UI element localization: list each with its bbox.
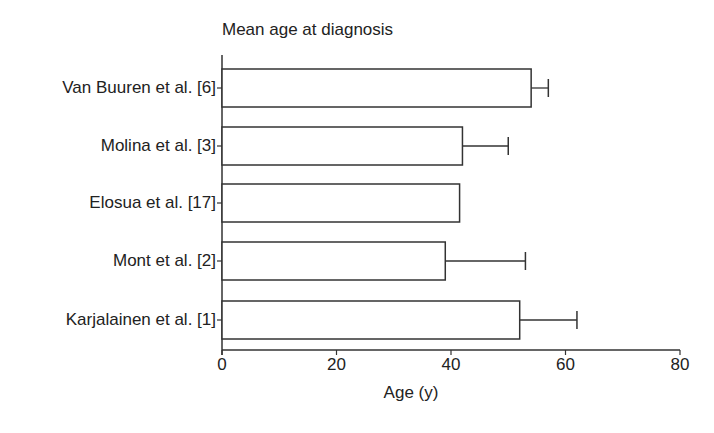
bar bbox=[222, 301, 520, 339]
bar bbox=[222, 127, 462, 165]
x-tick-label: 0 bbox=[217, 355, 226, 375]
x-tick-label: 60 bbox=[556, 355, 575, 375]
category-label: Mont et al. [2] bbox=[113, 251, 216, 271]
bar-chart bbox=[0, 0, 714, 433]
category-label: Van Buuren et al. [6] bbox=[62, 78, 216, 98]
bar bbox=[222, 184, 460, 222]
x-tick-label: 80 bbox=[671, 355, 690, 375]
x-tick-label: 40 bbox=[442, 355, 461, 375]
x-axis-label: Age (y) bbox=[384, 383, 439, 403]
category-label: Molina et al. [3] bbox=[101, 136, 216, 156]
bar bbox=[222, 69, 531, 107]
x-tick-label: 20 bbox=[327, 355, 346, 375]
category-label: Karjalainen et al. [1] bbox=[66, 310, 216, 330]
category-label: Elosua et al. [17] bbox=[89, 193, 216, 213]
bar bbox=[222, 242, 445, 280]
bars bbox=[222, 69, 577, 339]
